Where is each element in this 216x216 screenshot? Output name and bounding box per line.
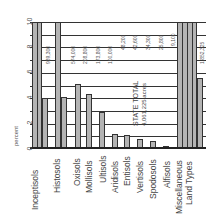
category-label: Mollisols bbox=[84, 160, 94, 193]
category-label: Miscellaneous bbox=[174, 160, 184, 214]
value-label: 48,200 bbox=[120, 35, 126, 50]
x-axis-line bbox=[30, 147, 206, 149]
value-label: 42,600 bbox=[132, 35, 138, 50]
value-label: 25,800 bbox=[158, 35, 164, 50]
y-tick: 4 bbox=[26, 89, 33, 107]
value-label: 1,852,325 bbox=[199, 42, 205, 64]
value-label: 574,000 bbox=[70, 46, 76, 64]
bar-misc bbox=[197, 78, 203, 149]
category-label: Ultisols bbox=[98, 156, 108, 183]
y-tick: 2 bbox=[26, 114, 33, 132]
plot-area: 989,300 574,000 208,800 173,800 100,000 … bbox=[30, 22, 206, 149]
state-total-label: STATE TOTAL bbox=[132, 81, 140, 126]
category-label: Spodosols bbox=[148, 159, 158, 199]
y-tick: 0 bbox=[26, 140, 33, 158]
category-label: Oxisols bbox=[72, 158, 82, 186]
category-label: Entisols bbox=[122, 156, 132, 186]
y-axis-label: percent bbox=[13, 126, 19, 146]
category-label: Inceptisols bbox=[30, 170, 40, 210]
value-label: 989,300 bbox=[45, 46, 51, 64]
bar-oxisols bbox=[75, 84, 81, 149]
category-label: Vertisols bbox=[135, 161, 145, 193]
state-total-acres: 4,061,225 acres bbox=[140, 83, 148, 126]
category-label: Land Types bbox=[184, 161, 194, 205]
y-tick: 6 bbox=[26, 63, 33, 81]
value-label: 9,100 bbox=[170, 33, 176, 46]
category-label: Alfisols bbox=[162, 161, 172, 188]
bar-histosols bbox=[61, 97, 67, 149]
bar-inceptisols bbox=[42, 98, 48, 149]
value-label: 34,300 bbox=[145, 35, 151, 50]
value-label: 100,000 bbox=[107, 46, 113, 64]
bar-misc-overflow bbox=[177, 22, 197, 149]
bar-mollisols bbox=[86, 94, 92, 149]
category-label: Histosols bbox=[52, 159, 62, 193]
value-label: 208,800 bbox=[82, 46, 88, 64]
y-tick: 10 bbox=[26, 13, 33, 31]
value-label: 173,800 bbox=[95, 46, 101, 64]
y-tick: 8 bbox=[26, 38, 33, 56]
category-label: Aridisols bbox=[110, 161, 120, 193]
bar-inceptisols-overflow bbox=[32, 22, 42, 149]
chart-root: 989,300 574,000 208,800 173,800 100,000 … bbox=[0, 0, 216, 216]
bar-ultisols bbox=[99, 112, 105, 149]
